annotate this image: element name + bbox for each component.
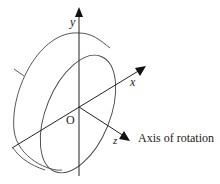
disk-back-rim bbox=[14, 33, 79, 170]
y-axis-label: y bbox=[69, 15, 76, 29]
disk-top-edge bbox=[79, 33, 110, 48]
x-axis-label: x bbox=[129, 75, 136, 89]
z-arrowhead-icon bbox=[119, 131, 130, 141]
z-axis bbox=[79, 107, 124, 136]
x-arrowhead-icon bbox=[135, 66, 146, 76]
disk-bottom-edge bbox=[13, 148, 45, 170]
z-axis-label: z bbox=[112, 134, 118, 146]
origin-label: O bbox=[66, 113, 75, 127]
rim-tick-mark bbox=[14, 69, 24, 76]
axis-of-rotation-label: Axis of rotation bbox=[138, 131, 214, 145]
y-arrowhead-icon bbox=[75, 7, 83, 17]
disk-front-face bbox=[25, 45, 131, 184]
disk-axes-diagram: y x z O Axis of rotation bbox=[0, 0, 220, 184]
